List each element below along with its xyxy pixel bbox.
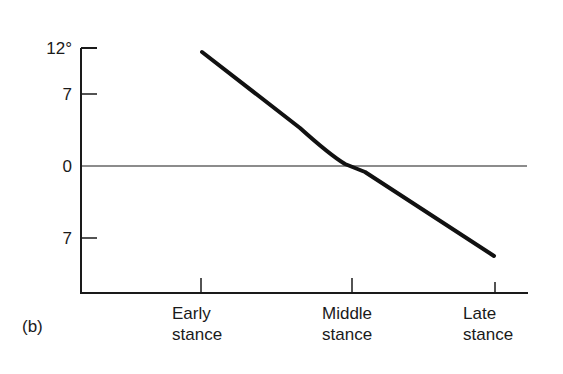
x-label-middle: Middle stance bbox=[322, 303, 372, 345]
y-tick-label-7: 7 bbox=[32, 86, 72, 103]
x-label-early: Early stance bbox=[172, 303, 222, 345]
x-label-late-line2: stance bbox=[463, 324, 513, 345]
x-label-late-line1: Late bbox=[463, 303, 513, 324]
data-line bbox=[202, 52, 494, 256]
y-tick-label-neg7: 7 bbox=[32, 230, 72, 247]
x-label-late: Late stance bbox=[463, 303, 513, 345]
x-label-middle-line1: Middle bbox=[322, 303, 372, 324]
panel-label: (b) bbox=[22, 318, 43, 335]
x-label-early-line1: Early bbox=[172, 303, 222, 324]
x-label-early-line2: stance bbox=[172, 324, 222, 345]
y-tick-label-0: 0 bbox=[32, 158, 72, 175]
y-tick-label-12: 12° bbox=[32, 40, 72, 57]
x-label-middle-line2: stance bbox=[322, 324, 372, 345]
